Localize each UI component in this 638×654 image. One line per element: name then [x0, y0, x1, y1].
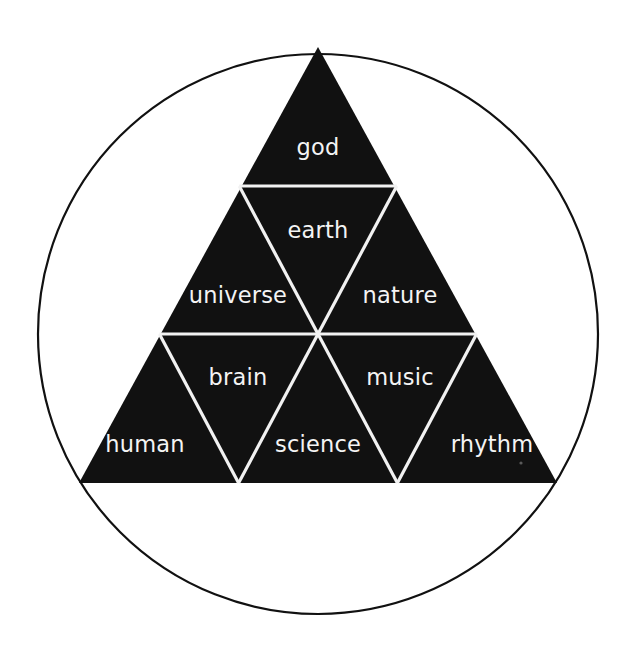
cell-label-brain: brain [209, 364, 268, 390]
cell-label-science: science [275, 431, 361, 457]
main-triangle [79, 47, 557, 483]
diagram-root: god earth universe nature brain music hu… [0, 0, 638, 654]
cell-label-rhythm: rhythm [451, 431, 534, 457]
cell-label-god: god [297, 134, 340, 160]
triangle-circle-diagram: god earth universe nature brain music hu… [0, 0, 638, 654]
cell-label-nature: nature [363, 282, 438, 308]
cell-label-human: human [105, 431, 185, 457]
cell-label-universe: universe [189, 282, 287, 308]
scan-speck [519, 461, 522, 464]
cell-label-earth: earth [288, 217, 349, 243]
cell-label-music: music [366, 364, 434, 390]
